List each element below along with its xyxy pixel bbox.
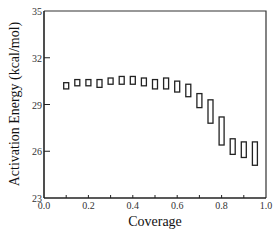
y-axis-title: Activation Energy (kcal/mol) — [7, 21, 23, 186]
x-axis-title: Coverage — [128, 214, 182, 229]
data-point-box — [164, 78, 169, 89]
y-tick-label: 29 — [32, 100, 42, 111]
data-point-box — [186, 84, 191, 96]
data-point-box — [141, 78, 146, 86]
data-point-box — [208, 100, 213, 123]
data-point-box — [219, 117, 224, 145]
data-point-box — [230, 139, 235, 155]
x-tick-label: 0.2 — [82, 200, 95, 211]
data-point-box — [241, 142, 246, 158]
y-tick-label: 32 — [32, 53, 42, 64]
data-point-box — [175, 81, 180, 92]
data-point-box — [252, 142, 257, 165]
data-markers — [64, 76, 258, 165]
y-axis-ticks: 2326293235 — [32, 6, 50, 204]
data-point-box — [119, 76, 124, 84]
x-tick-label: 0.8 — [215, 200, 228, 211]
data-point-box — [97, 80, 102, 88]
plot-frame — [44, 11, 266, 198]
data-point-box — [86, 80, 91, 86]
y-tick-label: 26 — [32, 146, 42, 157]
data-point-box — [108, 78, 113, 84]
data-point-box — [75, 80, 80, 86]
x-tick-label: 0.0 — [38, 200, 51, 211]
x-tick-label: 0.6 — [171, 200, 184, 211]
x-tick-label: 0.4 — [127, 200, 140, 211]
data-point-box — [153, 80, 158, 89]
data-point-box — [197, 94, 202, 108]
activation-energy-chart: 2326293235 0.00.20.40.60.81.0 Coverage A… — [0, 0, 276, 236]
x-tick-label: 1.0 — [260, 200, 273, 211]
data-point-box — [64, 83, 69, 89]
y-tick-label: 35 — [32, 6, 42, 17]
data-point-box — [130, 76, 135, 84]
